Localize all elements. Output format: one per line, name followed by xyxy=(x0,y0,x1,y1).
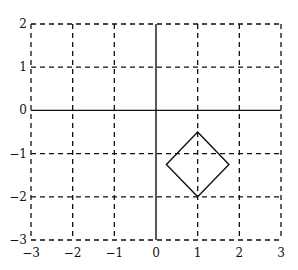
y-tick-label: −1 xyxy=(9,147,27,161)
x-tick-label: 3 xyxy=(277,246,285,260)
y-tick-label: 2 xyxy=(19,17,27,31)
y-tick-label: −2 xyxy=(9,190,27,204)
x-tick-label: −1 xyxy=(105,246,123,260)
y-tick-label: 1 xyxy=(19,60,27,74)
y-tick-label: −3 xyxy=(9,233,27,247)
x-tick-label: −3 xyxy=(22,246,40,260)
x-tick-label: 1 xyxy=(194,246,202,260)
x-tick-label: 2 xyxy=(236,246,244,260)
chart-container: −3−2−10123−3−2−1012 xyxy=(0,0,298,270)
coordinate-plane: −3−2−10123−3−2−1012 xyxy=(0,0,298,270)
x-tick-label: 0 xyxy=(152,246,160,260)
y-tick-label: 0 xyxy=(19,103,27,117)
x-tick-label: −2 xyxy=(64,246,82,260)
